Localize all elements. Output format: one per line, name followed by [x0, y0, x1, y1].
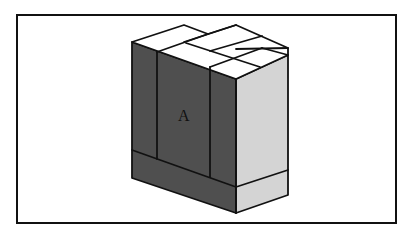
block-diagram: A — [0, 0, 410, 234]
side-face — [236, 55, 288, 213]
label-a: A — [178, 107, 190, 124]
